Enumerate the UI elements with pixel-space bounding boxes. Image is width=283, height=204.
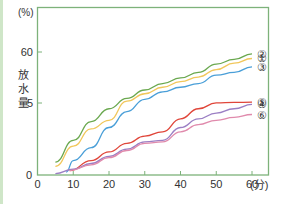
y-unit-label: (%) xyxy=(18,7,34,18)
y-tick-label: 60 xyxy=(21,46,33,58)
series-line-4 xyxy=(70,102,252,171)
x-axis-label: (分) xyxy=(250,179,268,191)
y-axis-label-char: 水 xyxy=(18,83,29,95)
x-tick-label: 40 xyxy=(174,178,186,190)
x-tick-label: 20 xyxy=(103,178,115,190)
series-label: ⑥ xyxy=(257,109,267,121)
y-axis-label-char: 量 xyxy=(18,97,29,109)
x-tick-label: 0 xyxy=(34,178,40,190)
x-tick-label: 10 xyxy=(67,178,79,190)
y-axis-label-char: 放 xyxy=(18,68,29,81)
series-label: ③ xyxy=(257,61,267,73)
x-tick-label: 30 xyxy=(139,178,151,190)
series-line-5 xyxy=(55,104,252,173)
y-axis-label: 放水量 xyxy=(18,68,29,109)
chart: 0102030405060 0560 ②①③⑤④⑥ (%) (分) 放水量 xyxy=(0,0,283,204)
y-tick-label: 0 xyxy=(26,169,32,181)
series-line-1 xyxy=(55,54,252,162)
x-tick-label: 50 xyxy=(210,178,222,190)
